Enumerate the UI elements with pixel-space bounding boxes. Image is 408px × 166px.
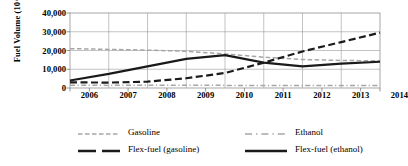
chart-legend: Gasoline Ethanol Flex-fuel (gasoline) Fl… <box>0 118 394 166</box>
plot-canvas <box>0 0 394 120</box>
legend-swatch-flex-fuel-gasoline <box>76 145 124 157</box>
legend-swatch-gasoline <box>76 128 124 140</box>
chart-plot-region: Fuel Volume (10^3 m3) 40,000 30,000 20,0… <box>0 0 394 120</box>
y-axis-ticks <box>67 13 71 88</box>
legend-swatch-flex-fuel-ethanol <box>243 145 291 157</box>
legend-swatch-ethanol <box>243 128 291 140</box>
legend-label-flex-fuel-gasoline: Flex-fuel (gasoline) <box>128 144 199 154</box>
legend-label-flex-fuel-ethanol: Flex-fuel (ethanol) <box>295 144 363 154</box>
x-axis-ticks <box>70 88 380 92</box>
legend-label-gasoline: Gasoline <box>128 127 160 137</box>
legend-label-ethanol: Ethanol <box>295 127 323 137</box>
